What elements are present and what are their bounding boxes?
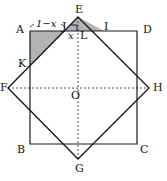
label-o: O: [71, 90, 80, 101]
measure-label-one-minus-x: 1−x: [36, 19, 56, 29]
label-a: A: [16, 24, 24, 35]
tick-leader-a: [30, 24, 34, 27]
label-c: C: [140, 144, 148, 155]
label-j: J: [62, 21, 66, 32]
label-e: E: [75, 4, 83, 15]
label-g: G: [75, 163, 84, 174]
label-f: F: [0, 82, 8, 93]
label-h: H: [153, 82, 163, 93]
geometry-figure: A B C D E F G H I J K L O 1−x x: [0, 0, 167, 181]
label-l: L: [80, 30, 87, 41]
label-b: B: [17, 144, 25, 155]
label-k: K: [18, 58, 26, 69]
measure-label-x: x: [68, 31, 74, 41]
label-i: I: [104, 21, 108, 32]
label-d: D: [143, 24, 152, 35]
